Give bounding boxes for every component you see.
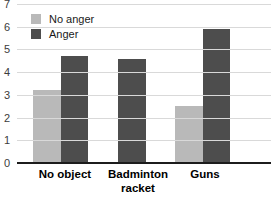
gridline-1 — [17, 140, 271, 141]
y-tick-label-0: 0 — [1, 157, 13, 169]
bar-anger-badminton-racket — [118, 59, 146, 163]
bar-chart: 76543210 No anger Anger No object Badmin… — [0, 0, 271, 198]
gridline-5 — [17, 49, 271, 50]
legend-swatch-anger-icon — [31, 29, 41, 39]
y-tick-label-7: 7 — [1, 0, 13, 10]
gridline-7 — [17, 4, 271, 5]
y-tick-label-4: 4 — [1, 66, 13, 78]
legend: No anger Anger — [31, 11, 94, 41]
y-tick-label-5: 5 — [1, 43, 13, 55]
legend-item-no-anger: No anger — [31, 11, 94, 26]
y-tick-label-1: 1 — [1, 134, 13, 146]
gridline-3 — [17, 95, 271, 96]
y-tick-label-3: 3 — [1, 89, 13, 101]
legend-label-no-anger: No anger — [49, 13, 94, 25]
x-axis-line — [17, 162, 271, 164]
gridline-2 — [17, 118, 271, 119]
legend-item-anger: Anger — [31, 26, 94, 41]
y-tick-label-6: 6 — [1, 21, 13, 33]
gridline-4 — [17, 72, 271, 73]
bar-no-anger-no-object — [33, 90, 61, 163]
legend-swatch-no-anger-icon — [31, 14, 41, 24]
category-label-guns: Guns — [163, 168, 247, 182]
legend-label-anger: Anger — [49, 28, 78, 40]
bar-no-anger-guns — [175, 106, 203, 163]
y-tick-label-2: 2 — [1, 112, 13, 124]
category-label-no-object: No object — [23, 168, 107, 182]
